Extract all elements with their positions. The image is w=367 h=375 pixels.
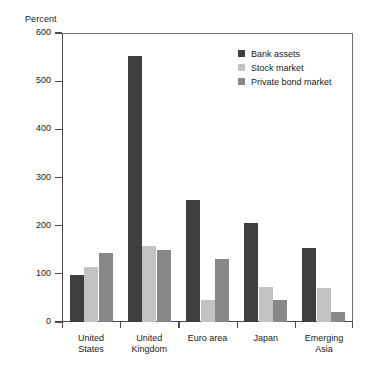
y-tick-label: 300 (36, 172, 51, 182)
x-axis-category-label: United Kingdom (120, 333, 178, 355)
x-tick-mark (120, 322, 121, 328)
bar (128, 56, 142, 322)
y-tick-label: 600 (36, 27, 51, 37)
bar (259, 287, 273, 322)
bar (99, 253, 113, 322)
x-axis-category-label: Emerging Asia (295, 333, 353, 355)
bar-chart: Percent 0100200300400500600 United State… (0, 0, 367, 375)
bar (317, 288, 331, 322)
y-tick-mark (55, 225, 62, 226)
y-tick-label: 500 (36, 75, 51, 85)
y-tick-mark (55, 129, 62, 130)
x-tick-mark (352, 322, 353, 328)
y-tick-label: 0 (46, 316, 51, 326)
y-tick-label: 200 (36, 220, 51, 230)
bar (142, 246, 156, 322)
y-tick-mark (55, 81, 62, 82)
y-tick-mark (55, 32, 62, 33)
x-axis-category-label: Euro area (178, 333, 236, 344)
legend-swatch-icon (238, 64, 245, 71)
bar (186, 200, 200, 322)
bar (331, 312, 345, 322)
bar (244, 223, 258, 322)
bar (215, 259, 229, 322)
bar (84, 267, 98, 322)
legend-label: Bank assets (251, 49, 300, 59)
y-tick-label: 400 (36, 123, 51, 133)
x-tick-mark (237, 322, 238, 328)
x-tick-mark (62, 322, 63, 328)
bar (70, 275, 84, 322)
legend-label: Stock market (251, 63, 304, 73)
legend-item: Private bond market (238, 75, 332, 88)
x-tick-mark (295, 322, 296, 328)
x-tick-mark (178, 322, 179, 328)
legend-swatch-icon (238, 50, 245, 57)
y-tick-mark (55, 177, 62, 178)
legend-item: Stock market (238, 61, 332, 74)
bar (302, 248, 316, 322)
y-axis-title: Percent (25, 14, 57, 24)
y-tick-mark (55, 321, 62, 322)
legend: Bank assetsStock marketPrivate bond mark… (238, 47, 332, 89)
x-axis-category-label: United States (62, 333, 120, 355)
y-tick-label: 100 (36, 268, 51, 278)
x-axis-category-label: Japan (237, 333, 295, 344)
legend-swatch-icon (238, 78, 245, 85)
bar (201, 300, 215, 322)
bar (273, 300, 287, 322)
legend-label: Private bond market (251, 77, 332, 87)
y-tick-mark (55, 273, 62, 274)
bar (157, 250, 171, 322)
legend-item: Bank assets (238, 47, 332, 60)
